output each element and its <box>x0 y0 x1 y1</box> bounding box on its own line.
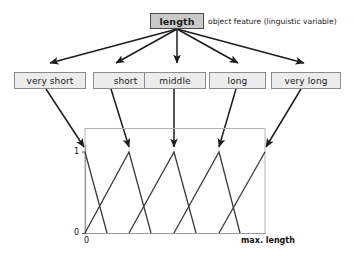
term-node-label: very long <box>284 76 327 86</box>
arrow-length-to-short <box>116 29 177 63</box>
term-node-label: short <box>114 76 138 86</box>
arrow-length-to-very-short <box>50 29 177 63</box>
curve-very-short <box>85 152 107 233</box>
root-to-term-arrows <box>50 29 304 63</box>
diagram-canvas: length object feature (linguistic variab… <box>0 0 354 265</box>
arrow-length-to-long <box>177 29 238 63</box>
term-node-very-long[interactable]: very long <box>271 72 341 89</box>
term-node-very-short[interactable]: very short <box>14 72 86 89</box>
diagram-vector-layer <box>0 0 354 265</box>
term-to-peak-arrows <box>46 89 301 147</box>
root-node-label: length <box>159 16 194 27</box>
term-node-label: middle <box>159 76 190 86</box>
term-node-label: very short <box>27 76 74 86</box>
arrow-short-to-peak <box>111 89 129 147</box>
curve-long <box>174 152 240 233</box>
term-node-label: long <box>228 76 248 86</box>
membership-curves <box>85 152 265 233</box>
x-axis-label-max-length: max. length <box>241 236 295 245</box>
term-node-middle[interactable]: middle <box>144 72 206 89</box>
curve-very-long <box>219 152 265 233</box>
x-axis-label-zero: 0 <box>84 236 89 245</box>
curve-middle <box>129 152 196 233</box>
term-node-long[interactable]: long <box>209 72 266 89</box>
arrow-very-long-to-peak <box>266 89 301 147</box>
y-axis-label-one: 1 <box>74 147 79 156</box>
root-annotation: object feature (linguistic variable) <box>208 17 337 26</box>
arrow-length-to-very-long <box>177 29 304 63</box>
arrow-very-short-to-peak <box>46 89 84 147</box>
y-axis-label-zero: 0 <box>74 228 79 237</box>
arrow-long-to-peak <box>219 89 236 147</box>
plot-frame <box>85 129 265 234</box>
root-node-length[interactable]: length <box>150 13 204 29</box>
curve-short <box>85 152 151 233</box>
